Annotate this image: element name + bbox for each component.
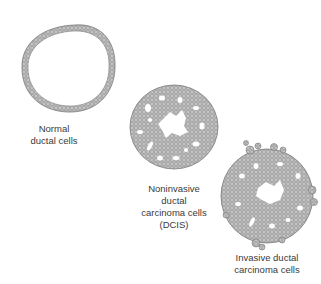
label-dcis-line-4: (DCIS) xyxy=(134,219,214,231)
label-dcis-line-3: carcinoma cells xyxy=(134,207,214,219)
label-normal-line-2: ductal cells xyxy=(14,135,94,147)
dcis-duct xyxy=(130,85,218,169)
label-invasive-line-1: Invasive ductal xyxy=(222,252,312,264)
label-dcis-line-2: ductal xyxy=(134,195,214,207)
label-invasive: Invasive ductal carcinoma cells xyxy=(222,252,312,276)
label-dcis: Noninvasive ductal carcinoma cells (DCIS… xyxy=(134,183,214,231)
label-dcis-line-1: Noninvasive xyxy=(134,183,214,195)
label-normal: Normal ductal cells xyxy=(14,123,94,147)
breast-cancer-progression-diagram: Normal ductal cells Noninvasive ductal c… xyxy=(0,0,321,284)
label-normal-line-1: Normal xyxy=(14,123,94,135)
normal-duct-ring xyxy=(22,25,115,112)
invasive-duct xyxy=(221,141,318,251)
label-invasive-line-2: carcinoma cells xyxy=(222,264,312,276)
